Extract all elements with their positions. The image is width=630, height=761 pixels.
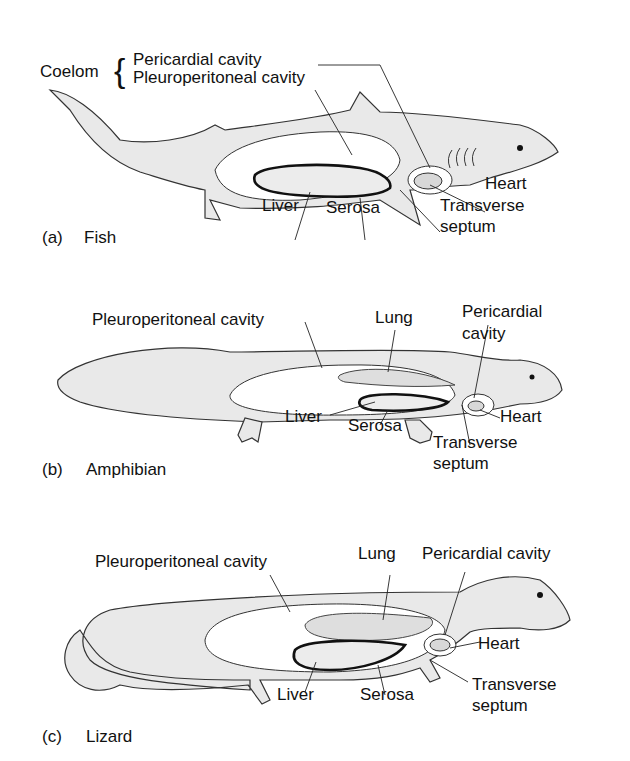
label-transverse: Transverse	[472, 675, 556, 694]
coelom-label: Coelom	[40, 62, 99, 81]
panel-fish: Coelom { Pericardial cavity Pleuroperito…	[0, 0, 630, 260]
label-liver: Liver	[277, 685, 314, 704]
label-liver: Liver	[262, 196, 299, 215]
label-liver: Liver	[285, 407, 322, 426]
label-transverse: Transverse	[433, 433, 517, 452]
label-pleuroperitoneal-cavity: Pleuroperitoneal cavity	[95, 552, 267, 571]
label-transverse: Transverse	[440, 196, 524, 215]
coelom-brace: {	[114, 52, 125, 88]
label-septum: septum	[433, 454, 489, 473]
label-lung: Lung	[375, 308, 413, 327]
label-pleuroperitoneal-cavity: Pleuroperitoneal cavity	[133, 68, 305, 87]
label-cavity: cavity	[462, 324, 505, 343]
label-pericardial-cavity: Pericardial cavity	[133, 50, 262, 69]
label-pleuroperitoneal-cavity: Pleuroperitoneal cavity	[92, 310, 264, 329]
caption-amphibian: Amphibian	[86, 460, 166, 480]
label-septum: septum	[472, 696, 528, 715]
label-heart: Heart	[485, 174, 527, 193]
fish-illustration	[0, 0, 630, 260]
caption-fish: Fish	[84, 228, 116, 248]
label-serosa: Serosa	[348, 416, 402, 435]
panel-amphibian: Pleuroperitoneal cavity Lung Pericardial…	[0, 280, 630, 510]
caption-lizard: Lizard	[86, 727, 132, 747]
label-heart: Heart	[478, 634, 520, 653]
label-heart: Heart	[500, 407, 542, 426]
caption-letter-c: (c)	[42, 727, 62, 747]
label-lung: Lung	[358, 544, 396, 563]
caption-letter-a: (a)	[42, 228, 63, 248]
panel-lizard: Pleuroperitoneal cavity Lung Pericardial…	[0, 520, 630, 761]
label-pericardial: Pericardial	[462, 302, 542, 321]
caption-letter-b: (b)	[42, 460, 63, 480]
label-serosa: Serosa	[326, 198, 380, 217]
label-septum: septum	[440, 217, 496, 236]
label-serosa: Serosa	[360, 685, 414, 704]
label-pericardial-cavity: Pericardial cavity	[422, 544, 551, 563]
